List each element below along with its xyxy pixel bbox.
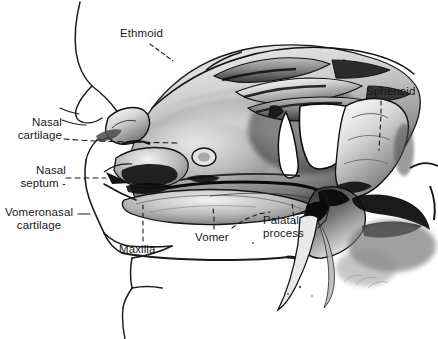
label-ethmoid: Ethmoid bbox=[120, 27, 163, 40]
anatomical-figure: Ethmoid Sphenoid Nasal cartilage Nasal s… bbox=[0, 0, 438, 339]
label-nasal-septum: Nasal septum - bbox=[0, 164, 66, 189]
label-vomeronasal-cartilage: Vomeronasal cartilage bbox=[0, 206, 78, 231]
label-sphenoid: Sphenoid bbox=[366, 85, 415, 98]
label-nasal-cartilage: Nasal cartilage bbox=[0, 116, 62, 141]
sphenoid-bone-fragment bbox=[335, 99, 414, 198]
label-palatal-process: Palatal process bbox=[263, 214, 304, 239]
label-vomer: Vomer bbox=[195, 231, 229, 244]
nasal-cartilage-lobe bbox=[96, 107, 150, 144]
skull-body bbox=[96, 40, 438, 310]
ethmoid-leader bbox=[150, 44, 173, 61]
label-maxilla: Maxilla bbox=[119, 243, 156, 256]
